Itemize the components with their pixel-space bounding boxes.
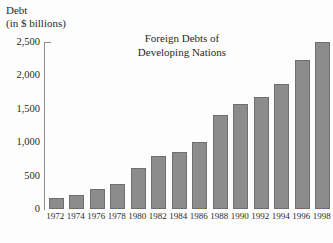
y-axis-tick-label: 1,500: [0, 104, 40, 115]
bar: [172, 152, 187, 209]
x-axis-tick-label: 1998: [312, 212, 333, 221]
x-axis-tick-label: 1984: [168, 212, 189, 221]
bar-series: 1972197419761978198019821984198619881990…: [46, 0, 333, 243]
plot-area: 05001,0001,5002,0002,500 197219741976197…: [0, 0, 333, 243]
x-axis-tick-label: 1988: [209, 212, 230, 221]
chart-page: Debt (in $ billions) Foreign Debts of De…: [0, 0, 333, 243]
y-axis-tick-label: 1,000: [0, 137, 40, 148]
x-axis-tick-label: 1972: [45, 212, 66, 221]
bar: [274, 84, 289, 209]
x-axis-tick-label: 1986: [189, 212, 210, 221]
bar: [254, 97, 269, 209]
bar: [213, 115, 228, 209]
x-axis-tick-label: 1992: [250, 212, 271, 221]
y-axis-line: [44, 42, 45, 210]
x-axis-tick-label: 1996: [291, 212, 312, 221]
x-axis-tick-label: 1990: [230, 212, 251, 221]
y-axis-tick-label: 2,000: [0, 70, 40, 81]
bar: [233, 104, 248, 209]
x-axis-tick-label: 1980: [127, 212, 148, 221]
bar: [69, 195, 84, 209]
bar: [315, 42, 330, 209]
x-axis-tick-label: 1982: [148, 212, 169, 221]
bar: [192, 142, 207, 209]
y-axis-tick-label: 500: [0, 171, 40, 182]
y-axis-tick-label: 2,500: [0, 37, 40, 48]
x-axis-tick-label: 1974: [66, 212, 87, 221]
bar: [295, 60, 310, 209]
bar: [151, 156, 166, 209]
x-axis-tick-label: 1976: [86, 212, 107, 221]
x-axis-tick-label: 1994: [271, 212, 292, 221]
y-axis-tick-label: 0: [0, 204, 40, 215]
x-axis-tick-label: 1978: [107, 212, 128, 221]
bar: [110, 184, 125, 209]
bar: [90, 189, 105, 209]
bar: [131, 168, 146, 209]
bar: [49, 198, 64, 209]
